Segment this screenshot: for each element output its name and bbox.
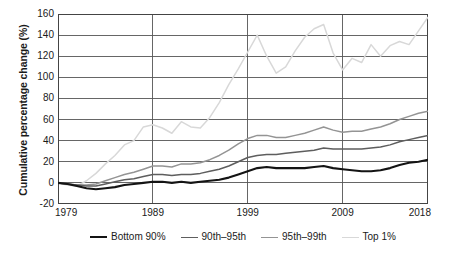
x-axis-tick-label: 2018 [409, 208, 431, 218]
legend-swatch [342, 237, 359, 238]
chart-figure: Cumulative percentage change (%) 1601401… [0, 0, 457, 260]
legend-label: 90th–95th [202, 232, 247, 242]
y-axis-tick-label: 160 [37, 9, 54, 19]
y-axis-tick-label: 40 [43, 136, 54, 146]
y-axis-tick-label: 0 [48, 178, 54, 188]
y-axis-tick-label: 20 [43, 157, 54, 167]
legend-label: Top 1% [363, 232, 396, 242]
legend-entry[interactable]: 90th–95th [181, 232, 247, 242]
legend-entry[interactable]: Top 1% [342, 232, 396, 242]
x-axis-tick-label: 2009 [331, 208, 353, 218]
chart-canvas [58, 14, 428, 204]
legend-swatch [261, 237, 278, 238]
y-axis-tick-label: 120 [37, 51, 54, 61]
x-axis-tick-label: 1979 [55, 208, 77, 218]
y-axis-tick-label: 140 [37, 30, 54, 40]
series-line-bottom-90 [58, 160, 428, 190]
chart-legend: Bottom 90%90th–95th95th–99thTop 1% [58, 232, 428, 242]
legend-label: Bottom 90% [111, 232, 165, 242]
y-axis-tick-label: 60 [43, 115, 54, 125]
plot-area: 160140120100806040200-201979198919992009… [58, 14, 428, 204]
y-axis-tick-label: 100 [37, 72, 54, 82]
legend-label: 95th–99th [282, 232, 327, 242]
plot-frame [59, 15, 428, 204]
x-axis-tick-label: 1989 [142, 208, 164, 218]
series-line-top-1 [58, 17, 428, 186]
y-axis-tick-label: -20 [40, 199, 54, 209]
legend-entry[interactable]: 95th–99th [261, 232, 327, 242]
y-axis-tick-label: 80 [43, 93, 54, 103]
legend-swatch [90, 236, 107, 238]
x-axis-tick-label: 1999 [237, 208, 259, 218]
legend-swatch [181, 237, 198, 238]
legend-entry[interactable]: Bottom 90% [90, 232, 165, 242]
y-axis-title: Cumulative percentage change (%) [17, 10, 29, 210]
